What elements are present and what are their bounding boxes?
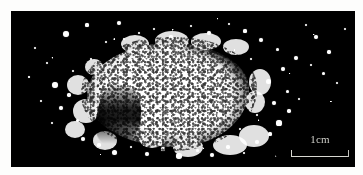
powder-grain: [322, 72, 325, 75]
powder-grain: [276, 48, 279, 51]
powder-grain: [314, 35, 318, 39]
powder-grain: [276, 120, 281, 125]
powder-grain: [287, 109, 291, 113]
powder-grain: [310, 64, 312, 66]
powder-grain: [228, 23, 231, 26]
figure-root: 1cm: [0, 0, 363, 175]
powder-grain: [28, 76, 30, 78]
powder-grain: [40, 100, 42, 102]
powder-grain: [305, 24, 307, 26]
powder-grain: [272, 101, 276, 105]
scale-bar-label: 1cm: [290, 133, 350, 146]
powder-grain: [85, 23, 88, 26]
heap-fringe-blob: [65, 121, 85, 138]
powder-grain: [51, 122, 54, 125]
scale-bar-rule: [291, 150, 349, 157]
powder-heap: [63, 29, 271, 155]
powder-grain: [298, 98, 300, 100]
scale-bar: 1cm: [290, 133, 350, 161]
powder-grain: [52, 82, 58, 88]
powder-grain: [294, 56, 298, 60]
powder-grain: [117, 21, 121, 25]
powder-grain: [286, 90, 289, 93]
powder-grain: [190, 25, 193, 28]
powder-grain: [344, 28, 347, 31]
powder-grain: [34, 47, 36, 49]
powder-grain: [336, 82, 338, 84]
powder-grain: [46, 62, 48, 64]
powder-grain: [327, 50, 330, 53]
photograph-plate: 1cm: [11, 11, 355, 167]
powder-grain: [281, 67, 285, 71]
